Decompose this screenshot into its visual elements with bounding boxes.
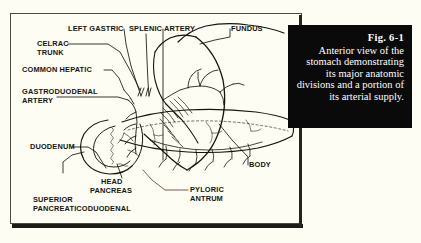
label-body: BODY xyxy=(249,161,271,170)
label-head-pancreas-line2: PANCREAS xyxy=(90,187,132,196)
label-superior-pancreaticoduodenal-line2: PANCREATICODUODENAL xyxy=(33,205,131,214)
gastric-rugae xyxy=(160,97,192,147)
label-celrac-trunk-line2: TRUNK xyxy=(37,49,64,58)
figure-caption-box: Fig. 6-1 Anterior view of the stomach de… xyxy=(288,25,412,128)
figure-page: LEFT GASTRIC SPLENIC ARTERY FUNDUS CELRA… xyxy=(0,0,421,243)
label-common-hepatic: COMMON HEPATIC xyxy=(22,66,92,75)
arterial-tree-left xyxy=(124,90,137,157)
label-fundus: FUNDUS xyxy=(231,25,263,34)
figure-number: Fig. 6-1 xyxy=(295,32,404,44)
pancreas-upper-border xyxy=(122,109,290,122)
label-gastroduodenal-line2: ARTERY xyxy=(22,97,53,106)
label-splenic-artery: SPLENIC ARTERY xyxy=(129,25,195,34)
label-pyloric-antrum-line2: ANTRUM xyxy=(190,195,223,204)
pancreatic-vessels xyxy=(150,120,261,145)
figure-caption-text: Anterior view of the stomach demonstrati… xyxy=(295,45,404,103)
stomach-fundus-dome xyxy=(155,35,196,52)
pancreas-lobulation xyxy=(128,121,288,131)
stomach-lesser-curvature xyxy=(154,52,167,104)
label-duodenum: DUODENUM xyxy=(30,143,75,152)
label-left-gastric: LEFT GASTRIC xyxy=(68,25,124,34)
